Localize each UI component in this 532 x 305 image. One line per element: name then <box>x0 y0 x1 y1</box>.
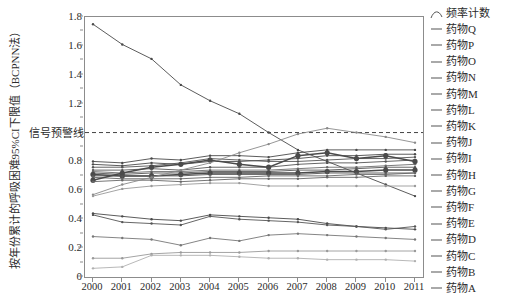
data-point <box>355 235 357 237</box>
data-point <box>180 254 182 256</box>
line-swatch-icon <box>430 250 443 262</box>
line-swatch-icon <box>430 153 443 165</box>
y-tick-mark-minor <box>80 146 83 147</box>
data-point <box>297 160 299 162</box>
y-axis-title-container: 按年份累计的呼吸困难95%CI下限值（BCPNN法） <box>0 0 24 305</box>
series-17 <box>92 250 416 260</box>
data-point <box>121 166 123 168</box>
x-tick-label: 2011 <box>404 281 425 292</box>
legend-item-药物F[interactable]: 药物F <box>430 199 474 215</box>
data-point <box>355 131 357 133</box>
data-point <box>326 166 328 168</box>
line-swatch-icon <box>430 282 443 294</box>
legend-label: 药物P <box>446 40 474 51</box>
series-1 <box>92 149 416 164</box>
data-point <box>121 257 123 259</box>
data-point <box>414 228 416 230</box>
data-point <box>238 173 240 175</box>
data-point <box>414 185 416 187</box>
legend-label: 药物O <box>446 56 476 67</box>
data-point <box>209 166 211 168</box>
data-point <box>297 218 299 220</box>
data-point <box>326 172 328 174</box>
data-point <box>238 218 240 220</box>
legend-label: 药物C <box>446 251 475 262</box>
data-point <box>180 251 182 253</box>
chart-root: 按年份累计的呼吸困难95%CI下限值（BCPNN法） 00.20.40.60.8… <box>0 0 532 305</box>
data-point <box>414 153 416 155</box>
y-tick-mark-minor <box>80 117 83 118</box>
legend-item-药物H[interactable]: 药物H <box>430 167 476 183</box>
data-point <box>120 170 125 175</box>
data-point <box>414 225 416 227</box>
series-18 <box>92 254 416 269</box>
line-swatch-icon <box>430 88 443 100</box>
data-point <box>180 219 182 221</box>
data-point <box>414 141 416 143</box>
legend-item-药物K[interactable]: 药物K <box>430 118 476 134</box>
line-swatch-icon <box>430 201 443 213</box>
data-point <box>92 235 94 237</box>
data-point <box>150 58 152 60</box>
legend-item-药物A[interactable]: 药物A <box>430 280 476 296</box>
x-tick-mark <box>326 278 327 282</box>
legend-item-药物J[interactable]: 药物J <box>430 135 472 151</box>
legend-label: 药物A <box>446 283 476 294</box>
line-swatch-bar <box>431 288 442 289</box>
x-tick-mark <box>151 278 152 282</box>
line-swatch-icon <box>430 23 443 35</box>
data-point <box>297 178 299 180</box>
data-point <box>238 113 240 115</box>
curve-icon <box>430 7 443 19</box>
data-point <box>180 180 182 182</box>
legend-item-药物E[interactable]: 药物E <box>430 216 475 232</box>
data-point <box>149 165 154 170</box>
y-tick-mark-minor <box>80 203 83 204</box>
data-point <box>326 234 328 236</box>
x-tick-label: 2009 <box>345 281 366 292</box>
legend-item-药物M[interactable]: 药物M <box>430 86 478 102</box>
series-line <box>93 183 415 196</box>
data-point <box>237 162 242 167</box>
data-point <box>238 256 240 258</box>
line-swatch-icon <box>430 39 443 51</box>
data-point <box>297 250 299 252</box>
data-point <box>209 176 211 178</box>
legend-item-药物Q[interactable]: 药物Q <box>430 21 476 37</box>
legend-item-药物B[interactable]: 药物B <box>430 264 475 280</box>
legend-item-药物C[interactable]: 药物C <box>430 248 475 264</box>
data-point <box>383 153 388 158</box>
legend-item-药物I[interactable]: 药物I <box>430 151 472 167</box>
legend-item-药物D[interactable]: 药物D <box>430 232 476 248</box>
x-tick-mark <box>209 278 210 282</box>
data-point <box>121 179 123 181</box>
legend[interactable]: 频率计数药物Q药物P药物O药物N药物M药物L药物K药物J药物I药物H药物G药物F… <box>430 5 530 301</box>
signal-warning-line-label: 信号预警线 <box>29 124 84 140</box>
legend-item-药物O[interactable]: 药物O <box>430 54 476 70</box>
data-point <box>326 258 328 260</box>
legend-item-药物P[interactable]: 药物P <box>430 37 474 53</box>
data-point <box>414 250 416 252</box>
x-tick-label: 2000 <box>82 281 103 292</box>
legend-label: 药物N <box>446 72 476 83</box>
y-tick-mark-minor <box>80 30 83 31</box>
data-point <box>180 84 182 86</box>
line-swatch-icon <box>430 137 443 149</box>
data-point <box>355 185 357 187</box>
x-tick-label: 2003 <box>169 281 190 292</box>
legend-item-药物G[interactable]: 药物G <box>430 183 476 199</box>
data-point <box>238 152 240 154</box>
data-point <box>209 254 211 256</box>
data-point <box>297 232 299 234</box>
x-tick-mark <box>92 278 93 282</box>
data-point <box>267 185 269 187</box>
legend-item-频率计数[interactable]: 频率计数 <box>430 5 490 21</box>
y-tick-mark <box>78 276 83 277</box>
data-point <box>267 143 269 145</box>
line-swatch-bar <box>431 29 442 30</box>
line-swatch-icon <box>430 234 443 246</box>
data-point <box>238 215 240 217</box>
legend-item-药物L[interactable]: 药物L <box>430 102 475 118</box>
data-point <box>150 157 152 159</box>
legend-item-药物N[interactable]: 药物N <box>430 70 476 86</box>
